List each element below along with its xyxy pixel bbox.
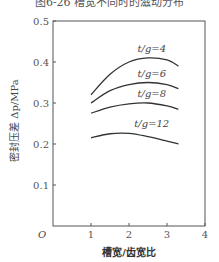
y-axis-label: 密封压差 Δp/MPa (6, 56, 21, 186)
series-label: t/g=4 (138, 43, 167, 54)
line-chart: 0.10.20.30.40.5 1234 O t/g=4t/g=6t/g=8t/… (0, 0, 219, 262)
series-line (91, 103, 178, 113)
y-tick-label: 0.3 (33, 98, 49, 109)
series-label: t/g=8 (138, 88, 167, 99)
y-tick-label: 0.5 (33, 16, 49, 27)
origin-label: O (38, 229, 46, 240)
data-series: t/g=4t/g=6t/g=8t/g=12 (91, 43, 178, 144)
y-tick-label: 0.1 (33, 180, 49, 191)
x-tick-label: 1 (88, 229, 94, 240)
plot-frame (53, 21, 205, 226)
x-tick-label: 2 (126, 229, 132, 240)
series-line (91, 133, 178, 144)
series-label: t/g=12 (134, 118, 169, 129)
x-tick-label: 3 (164, 229, 170, 240)
y-tick-label: 0.4 (33, 57, 49, 68)
x-axis-label: 槽宽/齿宽比 (53, 244, 205, 259)
series-label: t/g=6 (138, 68, 167, 79)
y-tick-label: 0.2 (33, 139, 49, 150)
x-tick-label: 4 (202, 229, 208, 240)
